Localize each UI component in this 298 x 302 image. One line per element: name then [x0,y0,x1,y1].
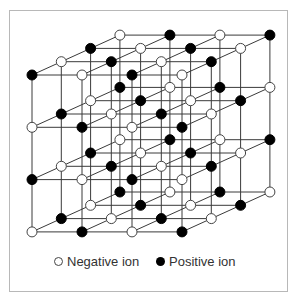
positive-ion [127,175,137,185]
positive-ion-icon [156,257,165,266]
positive-ion [86,148,96,158]
positive-ion [186,43,196,53]
lattice-ions [27,30,275,237]
positive-ion [106,161,116,171]
positive-ion [265,135,275,145]
negative-ion [206,109,216,119]
negative-ion [86,200,96,210]
negative-ion [115,135,125,145]
negative-ion [177,70,187,80]
legend-label-negative: Negative ion [67,254,139,269]
legend-item-positive: Positive ion [156,254,235,269]
positive-ion [236,96,246,106]
negative-ion [186,96,196,106]
negative-ion [136,43,146,53]
positive-ion [177,227,187,237]
legend: Negative ion Positive ion [0,254,298,272]
negative-ion [165,82,175,92]
negative-ion [86,96,96,106]
positive-ion [186,148,196,158]
positive-ion [56,214,66,224]
positive-ion [156,214,166,224]
negative-ion [177,175,187,185]
positive-ion [115,187,125,197]
positive-ion [106,57,116,67]
negative-ion [206,214,216,224]
negative-ion [165,187,175,197]
negative-ion [77,70,87,80]
negative-ion [56,57,66,67]
negative-ion [215,135,225,145]
positive-ion [127,70,137,80]
negative-ion [106,214,116,224]
negative-ion [56,161,66,171]
negative-ion [236,148,246,158]
negative-ion [265,187,275,197]
positive-ion [165,30,175,40]
positive-ion [215,82,225,92]
positive-ion [77,227,87,237]
lattice-bonds [32,35,270,232]
positive-ion [136,200,146,210]
negative-ion-icon [54,257,63,266]
positive-ion [236,200,246,210]
negative-ion [127,227,137,237]
positive-ion [27,70,37,80]
positive-ion [27,175,37,185]
negative-ion [265,82,275,92]
positive-ion [215,187,225,197]
negative-ion [136,148,146,158]
positive-ion [265,30,275,40]
positive-ion [156,109,166,119]
negative-ion [77,175,87,185]
positive-ion [206,57,216,67]
positive-ion [206,161,216,171]
negative-ion [106,109,116,119]
positive-ion [115,82,125,92]
negative-ion [27,227,37,237]
negative-ion [27,122,37,132]
negative-ion [186,200,196,210]
negative-ion [115,30,125,40]
positive-ion [177,122,187,132]
positive-ion [77,122,87,132]
negative-ion [156,161,166,171]
negative-ion [127,122,137,132]
negative-ion [215,30,225,40]
positive-ion [165,135,175,145]
negative-ion [236,43,246,53]
legend-item-negative: Negative ion [54,254,139,269]
legend-label-positive: Positive ion [169,254,235,269]
positive-ion [56,109,66,119]
positive-ion [136,96,146,106]
positive-ion [86,43,96,53]
negative-ion [156,57,166,67]
